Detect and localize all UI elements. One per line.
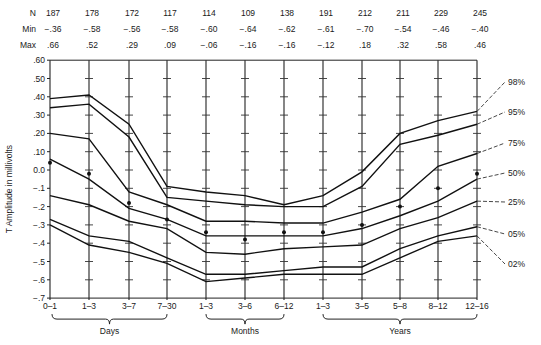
mean-dot — [282, 230, 286, 234]
percentile-chart: N187178172117114109138191212211229245Min… — [0, 0, 541, 345]
header-cell: −.62 — [279, 24, 296, 34]
legend-leader — [477, 82, 505, 111]
header-cell: −.70 — [357, 24, 374, 34]
x-tick-label: 1–3 — [199, 301, 213, 311]
mean-dot — [360, 223, 364, 227]
header-cell: 114 — [202, 8, 216, 18]
header-row-label: Min — [22, 24, 36, 34]
percentile-line — [50, 219, 477, 274]
group-brace — [52, 314, 167, 324]
header-cell: −.16 — [240, 40, 257, 50]
series-label: 05% — [508, 229, 525, 239]
header-cell: 212 — [358, 8, 372, 18]
header-cell: −.40 — [472, 24, 489, 34]
y-tick-label: .40 — [33, 92, 45, 102]
x-tick-label: 12–16 — [465, 301, 489, 311]
x-tick-label: 3–5 — [355, 301, 369, 311]
chart-svg: N187178172117114109138191212211229245Min… — [0, 0, 541, 345]
y-tick-label: .20 — [33, 128, 45, 138]
header-cell: 245 — [473, 8, 487, 18]
header-cell: .66 — [47, 40, 59, 50]
percentile-line — [50, 133, 477, 223]
header-row-label: N — [30, 8, 36, 18]
y-tick-label: −.3 — [33, 220, 45, 230]
header-cell: 191 — [319, 8, 333, 18]
y-tick-label: −.2 — [33, 202, 45, 212]
mean-dot — [87, 172, 91, 176]
x-tick-label: 8–12 — [429, 301, 448, 311]
y-tick-label: −.5 — [33, 257, 45, 267]
header-cell: 229 — [434, 8, 448, 18]
series-label: 50% — [508, 168, 525, 178]
group-label: Years — [389, 326, 410, 336]
y-tick-label: .10 — [33, 147, 45, 157]
header-cell: −.60 — [201, 24, 218, 34]
x-tick-label: 7–30 — [158, 301, 177, 311]
percentile-line — [50, 104, 477, 206]
header-cell: 187 — [46, 8, 60, 18]
mean-dot — [436, 186, 440, 190]
header-cell: −.54 — [395, 24, 412, 34]
header-cell: −.56 — [124, 24, 141, 34]
legend-leader — [477, 143, 505, 154]
series-label: 95% — [508, 107, 525, 117]
header-cell: 117 — [163, 8, 177, 18]
header-cell: .29 — [126, 40, 138, 50]
header-cell: .46 — [474, 40, 486, 50]
header-cell: .09 — [164, 40, 176, 50]
y-tick-label: .60 — [33, 55, 45, 65]
header-cell: .18 — [359, 40, 371, 50]
header-cell: −.46 — [433, 24, 450, 34]
series-label: 98% — [508, 77, 525, 87]
header-row-label: Max — [20, 40, 37, 50]
mean-dot — [165, 217, 169, 221]
mean-dot — [398, 205, 402, 209]
series-label: 75% — [508, 138, 525, 148]
legend-leader — [477, 173, 505, 179]
header-cell: 172 — [125, 8, 139, 18]
x-tick-label: 3–7 — [122, 301, 136, 311]
header-cell: −.58 — [84, 24, 101, 34]
header-cell: −.36 — [45, 24, 62, 34]
y-tick-label: −.1 — [33, 183, 45, 193]
x-tick-label: 1–3 — [316, 301, 330, 311]
legend-leader — [477, 236, 505, 264]
header-cell: −.61 — [318, 24, 335, 34]
y-tick-label: −.6 — [33, 275, 45, 285]
series-label: 02% — [508, 259, 525, 269]
x-tick-label: 6–12 — [275, 301, 294, 311]
header-cell: 109 — [241, 8, 255, 18]
y-axis-label: T Amplitude in millivolts — [4, 145, 14, 233]
header-cell: 178 — [85, 8, 99, 18]
y-tick-label: 0.0 — [33, 165, 45, 175]
percentile-line — [50, 196, 477, 255]
header-cell: −.06 — [201, 40, 218, 50]
y-tick-label: .30 — [33, 110, 45, 120]
x-tick-label: 3–6 — [238, 301, 252, 311]
header-cell: −.58 — [162, 24, 179, 34]
header-cell: .32 — [397, 40, 409, 50]
header-cell: 138 — [280, 8, 294, 18]
header-cell: .58 — [435, 40, 447, 50]
legend-leader — [477, 227, 505, 234]
group-brace — [323, 314, 477, 324]
header-cell: −.12 — [318, 40, 335, 50]
group-brace — [206, 314, 284, 324]
legend-leader — [477, 112, 505, 124]
mean-dot — [204, 230, 208, 234]
header-cell: −.64 — [240, 24, 257, 34]
header-cell: .52 — [86, 40, 98, 50]
mean-dot — [243, 238, 247, 242]
y-tick-label: .50 — [33, 74, 45, 84]
mean-dot — [475, 172, 479, 176]
header-cell: 211 — [396, 8, 410, 18]
group-label: Months — [231, 326, 259, 336]
x-tick-label: 1–3 — [82, 301, 96, 311]
x-tick-label: 5–8 — [393, 301, 407, 311]
mean-dot — [48, 161, 52, 165]
legend-leader — [477, 201, 505, 202]
y-tick-label: −.4 — [33, 238, 45, 248]
group-label: Days — [100, 326, 119, 336]
mean-dot — [127, 201, 131, 205]
series-label: 25% — [508, 197, 525, 207]
